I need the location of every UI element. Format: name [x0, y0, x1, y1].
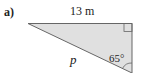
angle-label: 65° [109, 53, 124, 64]
triangle-shape [28, 24, 132, 74]
top-side-length: 13 m [70, 5, 94, 17]
hypotenuse-label: p [70, 53, 77, 66]
